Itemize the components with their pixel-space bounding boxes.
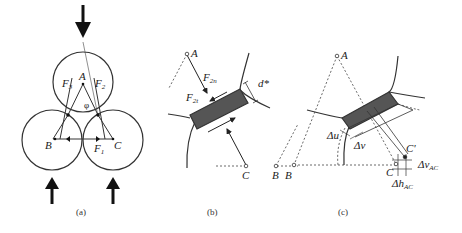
label-b-C: C bbox=[242, 170, 249, 181]
label-b-A: A bbox=[191, 48, 198, 59]
label-a-A: A bbox=[79, 71, 86, 82]
caption-c: (c) bbox=[338, 208, 348, 217]
label-F2n: F2n bbox=[203, 72, 217, 85]
figure: A B C F3 F2 F1 φ (a) A C B F2n F2t d* (b… bbox=[0, 0, 462, 233]
label-phi: φ bbox=[84, 101, 89, 110]
label-dh-ac: ΔhAC bbox=[392, 178, 413, 191]
label-dv-ac: ΔvAC bbox=[418, 159, 438, 172]
caption-a: (a) bbox=[76, 208, 86, 217]
label-F3: F3 bbox=[62, 78, 72, 91]
diagram-canvas bbox=[0, 0, 462, 233]
label-dv: Δv bbox=[354, 140, 365, 151]
panel-c bbox=[292, 54, 425, 176]
label-c-C-prime: C' bbox=[406, 143, 416, 154]
panel-b bbox=[168, 52, 298, 168]
label-F1: F1 bbox=[94, 143, 104, 156]
label-b-B: B bbox=[272, 170, 279, 181]
label-F2t: F2t bbox=[186, 92, 198, 105]
panel-a bbox=[22, 5, 143, 204]
label-a-B: B bbox=[45, 140, 52, 151]
label-a-C: C bbox=[114, 140, 121, 151]
label-c-B: B bbox=[285, 170, 292, 181]
label-du: Δu bbox=[327, 130, 339, 141]
caption-b: (b) bbox=[207, 208, 218, 217]
circle-B bbox=[22, 110, 82, 170]
label-c-A: A bbox=[341, 50, 348, 61]
label-d-star: d* bbox=[258, 78, 269, 89]
label-F2: F2 bbox=[95, 78, 105, 91]
